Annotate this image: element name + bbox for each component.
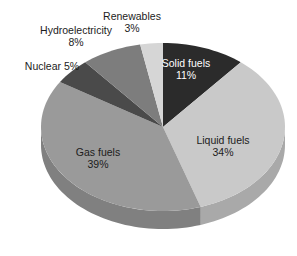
slice-label-solid-fuels: Solid fuels 11% [156,57,216,81]
slice-label-renewables-name: Renewables [103,10,161,22]
slice-label-gas-fuels-name: Gas fuels [76,146,120,158]
slice-label-liquid-fuels: Liquid fuels 34% [186,134,260,158]
slice-label-solid-fuels-name: Solid fuels [162,57,210,69]
slice-label-hydroelectricity-value: 8% [21,36,131,48]
slice-label-nuclear: Nuclear 5% [10,60,94,72]
slice-label-hydroelectricity-name: Hydroelectricity [40,24,112,36]
slice-label-gas-fuels-value: 39% [62,158,134,170]
slice-label-nuclear-name: Nuclear 5% [25,60,79,72]
pie-chart-figure: Renewables 3% Hydroelectricity 8% Nuclea… [0,0,297,256]
slice-label-gas-fuels: Gas fuels 39% [62,146,134,170]
slice-label-hydroelectricity: Hydroelectricity 8% [21,24,131,48]
slice-label-liquid-fuels-name: Liquid fuels [196,134,249,146]
slice-label-liquid-fuels-value: 34% [186,146,260,158]
slice-label-solid-fuels-value: 11% [156,69,216,81]
